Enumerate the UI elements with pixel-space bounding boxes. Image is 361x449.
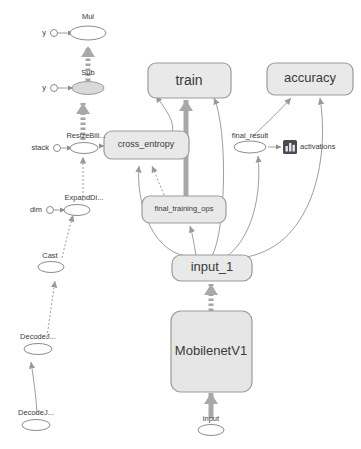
- const-dim[interactable]: dim: [30, 205, 54, 214]
- node-input-1-label: input_1: [191, 259, 234, 274]
- const-y-sub[interactable]: y: [42, 83, 57, 92]
- node-cast[interactable]: Cast: [38, 251, 64, 273]
- node-final-training-ops[interactable]: final_training_ops: [142, 196, 226, 223]
- node-final-result-label: final_result: [232, 131, 269, 140]
- node-resize-bilinear-label: ResizeBili...: [66, 131, 105, 140]
- edge-finaltrainingops-to-crossentropy: [152, 166, 166, 199]
- node-final-training-ops-label: final_training_ops: [155, 204, 214, 213]
- node-train[interactable]: train: [148, 63, 231, 98]
- node-train-label: train: [175, 72, 202, 88]
- edge-crossentropy-to-train: [156, 96, 173, 134]
- const-dim-label: dim: [30, 205, 42, 214]
- node-expand-dims[interactable]: ExpandDi...: [64, 193, 103, 216]
- node-accuracy[interactable]: accuracy: [267, 63, 353, 95]
- node-input-label: input: [203, 414, 220, 423]
- node-expand-dims-label: ExpandDi...: [65, 193, 104, 202]
- edge-decodejpeg1-to-cast: [47, 281, 55, 337]
- const-y-mul[interactable]: y: [42, 28, 57, 37]
- node-mobilenetv1-label: MobilenetV1: [175, 343, 247, 358]
- node-resize-bilinear[interactable]: ResizeBili...: [66, 131, 105, 154]
- node-cross-entropy-label: cross_entropy: [118, 139, 175, 149]
- node-sub-label: Sub: [81, 68, 94, 77]
- node-sub[interactable]: Sub: [72, 68, 104, 95]
- edge-input1-to-accuracy: [240, 98, 323, 258]
- node-decode-jpeg-2[interactable]: DecodeJ...: [18, 408, 54, 431]
- graph-svg[interactable]: train accuracy cross_entropy final_train…: [0, 0, 361, 449]
- node-decode-jpeg-1[interactable]: DecodeJ...: [20, 332, 56, 355]
- node-cross-entropy[interactable]: cross_entropy: [104, 131, 189, 159]
- edge-input1-to-finalresult: [226, 156, 259, 257]
- node-decode-jpeg-2-label: DecodeJ...: [18, 408, 54, 417]
- const-stack-label: stack: [31, 143, 49, 152]
- edge-input1-to-finaltrainingops: [190, 226, 196, 256]
- const-y-mul-label: y: [42, 28, 46, 37]
- node-input[interactable]: input: [198, 414, 224, 436]
- node-mobilenetv1[interactable]: MobilenetV1: [171, 311, 252, 392]
- const-y-sub-label: y: [42, 83, 46, 92]
- node-decode-jpeg-1-label: DecodeJ...: [20, 332, 56, 341]
- node-cast-label: Cast: [42, 251, 58, 260]
- node-final-result[interactable]: final_result: [232, 131, 269, 153]
- node-mul-label: Mul: [82, 12, 94, 21]
- edge-cast-to-expanddims: [62, 215, 73, 258]
- node-mul[interactable]: Mul: [70, 12, 106, 40]
- node-accuracy-label: accuracy: [284, 70, 337, 85]
- edge-input1-to-train: [212, 98, 224, 256]
- node-activations-label: activations: [300, 142, 336, 151]
- edge-decodejpeg2-to-decodejpeg1: [31, 362, 37, 413]
- node-input-1[interactable]: input_1: [172, 255, 252, 281]
- bar-chart-icon: [283, 140, 297, 154]
- tensorflow-graph-canvas[interactable]: train accuracy cross_entropy final_train…: [0, 0, 361, 449]
- node-activations[interactable]: activations: [283, 140, 336, 154]
- const-stack[interactable]: stack: [31, 143, 60, 152]
